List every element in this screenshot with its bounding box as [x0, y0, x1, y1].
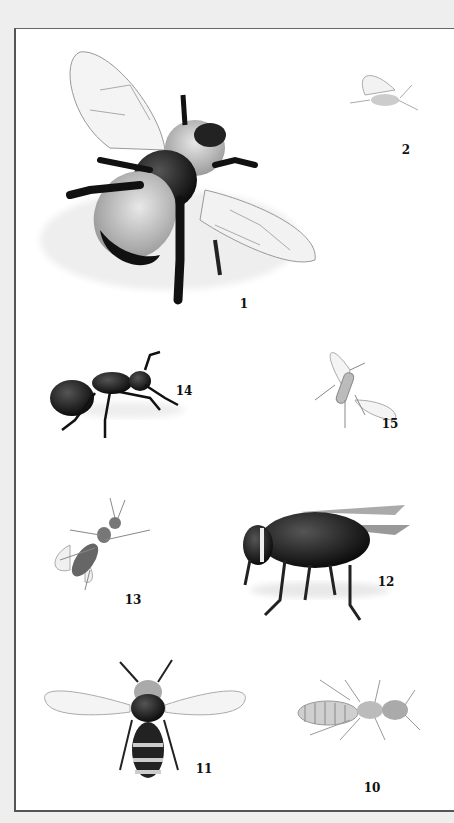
specimen-label-2: 2: [402, 143, 410, 157]
specimen-label-1: 1: [240, 297, 248, 311]
specimen-aphid: [350, 76, 418, 110]
specimen-termite: [298, 680, 420, 740]
specimen-bumblebee: [40, 52, 315, 300]
specimen-label-12: 12: [378, 575, 395, 589]
specimen-winged-ant: [55, 498, 150, 590]
specimen-label-14: 14: [176, 384, 193, 398]
specimen-label-13: 13: [125, 593, 142, 607]
specimen-ant: [50, 352, 185, 438]
specimen-label-10: 10: [364, 781, 381, 795]
specimen-label-15: 15: [382, 417, 399, 431]
specimen-hornet: [243, 505, 410, 620]
specimen-label-11: 11: [196, 762, 213, 776]
specimen-honeybee: [45, 660, 246, 778]
